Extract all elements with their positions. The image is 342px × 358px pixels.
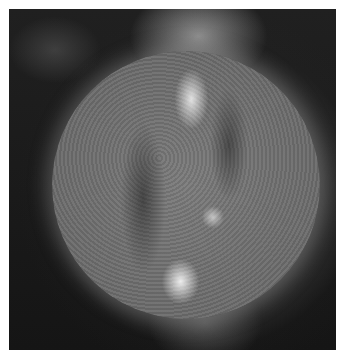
sun-disk	[52, 51, 320, 319]
solar-image	[9, 9, 336, 350]
